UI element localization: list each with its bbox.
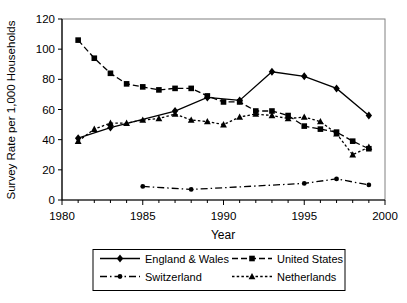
plot-border xyxy=(62,19,385,200)
chart-generated-content: 02040608010012019801985199019952000Engla… xyxy=(36,13,398,291)
marker-united-states-1995 xyxy=(301,123,307,129)
marker-united-states-1985 xyxy=(140,84,146,90)
x-tick-label-1995: 1995 xyxy=(291,210,317,222)
legend-label-united-states: United States xyxy=(277,253,344,265)
y-tick-label-80: 80 xyxy=(42,73,55,85)
marker-switzerland-1985 xyxy=(140,184,145,189)
marker-united-states-1991 xyxy=(237,99,243,105)
x-tick-label-1990: 1990 xyxy=(211,210,237,222)
chart-page: 02040608010012019801985199019952000Engla… xyxy=(0,0,407,303)
y-tick-label-120: 120 xyxy=(36,13,55,25)
y-tick-label-0: 0 xyxy=(49,194,55,206)
marker-united-states-1982 xyxy=(92,55,98,61)
marker-united-states-1996 xyxy=(318,126,324,132)
x-tick-label-1980: 1980 xyxy=(49,210,75,222)
marker-united-states-1984 xyxy=(124,81,130,87)
legend-label-netherlands: Netherlands xyxy=(277,271,337,283)
y-tick-label-20: 20 xyxy=(42,164,55,176)
marker-united-states-1990 xyxy=(221,99,227,105)
marker-switzerland-1995 xyxy=(302,181,307,186)
y-tick-label-40: 40 xyxy=(42,134,55,146)
x-axis-title: Year xyxy=(211,228,235,242)
survey-rate-line-chart: 02040608010012019801985199019952000Engla… xyxy=(0,0,407,303)
marker-united-states-1986 xyxy=(156,87,162,93)
x-tick-label-2000: 2000 xyxy=(372,210,398,222)
x-tick-label-1985: 1985 xyxy=(130,210,156,222)
marker-united-states-1987 xyxy=(172,86,178,92)
marker-united-states-1988 xyxy=(188,86,194,92)
marker-switzerland-1999 xyxy=(366,183,371,188)
legend-marker-united-states xyxy=(249,256,255,262)
y-tick-label-100: 100 xyxy=(36,43,55,55)
y-axis-title: Survey Rate per 1,000 Households xyxy=(5,20,17,199)
y-tick-label-60: 60 xyxy=(42,104,55,116)
legend-label-switzerland: Switzerland xyxy=(145,271,202,283)
marker-switzerland-1997 xyxy=(334,176,339,181)
marker-united-states-1983 xyxy=(108,71,114,77)
legend-marker-switzerland xyxy=(118,274,123,279)
legend-label-england-wales: England & Wales xyxy=(145,253,229,265)
marker-united-states-1998 xyxy=(350,138,356,144)
marker-switzerland-1988 xyxy=(189,187,194,192)
marker-united-states-1989 xyxy=(205,93,211,99)
marker-united-states-1981 xyxy=(75,37,81,43)
